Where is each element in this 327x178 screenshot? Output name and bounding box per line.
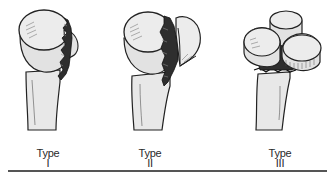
humeral-head-fracture-two-fragment-icon xyxy=(118,0,208,140)
label-type-3: Type III xyxy=(262,148,298,168)
humeral-head-fracture-comminuted-icon xyxy=(240,0,327,140)
panel-type-1: Type I xyxy=(14,0,94,140)
type-numeral: III xyxy=(262,158,298,168)
humeral-head-fracture-one-fragment-icon xyxy=(14,0,94,140)
panel-type-2: Type II xyxy=(118,0,208,140)
fracture-types-figure: Type I Type II xyxy=(0,0,327,178)
label-type-2: Type II xyxy=(132,148,168,168)
type-numeral: II xyxy=(132,158,168,168)
panel-type-3: Type III xyxy=(240,0,327,140)
bottom-divider xyxy=(8,170,327,172)
type-numeral: I xyxy=(30,158,66,168)
label-type-1: Type I xyxy=(30,148,66,168)
